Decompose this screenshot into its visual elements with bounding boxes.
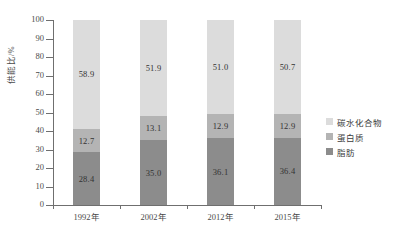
bar-segment-value-label: 12.9: [280, 121, 296, 131]
bar-segment[interactable]: 58.9: [73, 20, 100, 129]
x-axis-category-label: 2015年: [254, 210, 321, 222]
bar-segment[interactable]: 12.9: [274, 114, 301, 138]
x-axis-category-label: 1992年: [53, 210, 120, 222]
bar-segment-value-label: 12.7: [79, 136, 95, 146]
bar-segment-value-label: 36.4: [280, 166, 296, 176]
bar-segment[interactable]: 13.1: [140, 116, 167, 140]
x-axis-category-label: 2002年: [120, 210, 187, 222]
bar-segment[interactable]: 12.9: [207, 114, 234, 138]
bar-group[interactable]: 36.112.951.0: [207, 20, 234, 205]
legend-item[interactable]: 脂肪: [326, 144, 382, 159]
plot-area: 0102030405060708090100 28.412.758.935.01…: [53, 20, 321, 205]
y-axis-tick: 50: [46, 113, 53, 114]
legend-item[interactable]: 碳水化合物: [326, 114, 382, 129]
x-axis-tick: [53, 205, 54, 209]
legend-color-swatch: [326, 118, 333, 125]
bar-segment-value-label: 28.4: [79, 174, 95, 184]
y-axis-tick-label: 60: [36, 88, 45, 98]
y-axis-tick: 70: [46, 76, 53, 77]
bar-segment[interactable]: 50.7: [274, 20, 301, 114]
x-axis-tick: [321, 205, 322, 209]
y-axis-tick: 100: [46, 20, 53, 21]
bar-segment-value-label: 13.1: [146, 123, 162, 133]
legend: 碳水化合物蛋白质脂肪: [326, 114, 382, 159]
bar-segment[interactable]: 35.0: [140, 140, 167, 205]
bar-segment[interactable]: 12.7: [73, 129, 100, 152]
y-axis-tick-label: 20: [36, 162, 45, 172]
y-axis-tick-label: 0: [40, 199, 44, 209]
bar-segment-value-label: 50.7: [280, 62, 296, 72]
legend-item-label: 脂肪: [337, 146, 355, 158]
y-axis-tick: 0: [46, 205, 53, 206]
legend-item-label: 碳水化合物: [337, 116, 382, 128]
bar-segment-value-label: 51.0: [213, 62, 229, 72]
legend-item-label: 蛋白质: [337, 131, 364, 143]
bar-group[interactable]: 28.412.758.9: [73, 20, 100, 205]
y-axis-tick: 90: [46, 39, 53, 40]
y-axis-tick: 10: [46, 187, 53, 188]
bar-segment[interactable]: 51.9: [140, 20, 167, 116]
y-axis-tick-label: 100: [31, 14, 44, 24]
y-axis-tick-label: 90: [36, 33, 45, 43]
y-axis-tick: 60: [46, 94, 53, 95]
legend-color-swatch: [326, 133, 333, 140]
bar-segment-value-label: 12.9: [213, 121, 229, 131]
x-axis-tick: [254, 205, 255, 209]
x-axis-tick: [120, 205, 121, 209]
y-axis-label: 供能比/%: [4, 25, 16, 105]
bar-segment[interactable]: 36.4: [274, 138, 301, 205]
bar-group[interactable]: 36.412.950.7: [274, 20, 301, 205]
y-axis-spine: [53, 20, 54, 205]
y-axis-tick-label: 70: [36, 70, 45, 80]
bar-segment-value-label: 58.9: [79, 69, 95, 79]
bar-segment[interactable]: 28.4: [73, 152, 100, 205]
legend-item[interactable]: 蛋白质: [326, 129, 382, 144]
x-axis-tick: [187, 205, 188, 209]
x-axis-category-label: 2012年: [187, 210, 254, 222]
bar-segment-value-label: 51.9: [146, 63, 162, 73]
bar-group[interactable]: 35.013.151.9: [140, 20, 167, 205]
bar-segment-value-label: 36.1: [213, 167, 229, 177]
bar-segment[interactable]: 36.1: [207, 138, 234, 205]
legend-color-swatch: [326, 148, 333, 155]
y-axis-tick-label: 40: [36, 125, 45, 135]
y-axis-tick: 20: [46, 168, 53, 169]
bar-segment-value-label: 35.0: [146, 168, 162, 178]
y-axis-tick: 30: [46, 150, 53, 151]
y-axis-tick: 80: [46, 57, 53, 58]
y-axis-tick-label: 10: [36, 181, 45, 191]
y-axis-tick-label: 50: [36, 107, 45, 117]
y-axis-tick: 40: [46, 131, 53, 132]
y-axis-tick-label: 30: [36, 144, 45, 154]
bar-segment[interactable]: 51.0: [207, 20, 234, 114]
y-axis-tick-label: 80: [36, 51, 45, 61]
stacked-bar-chart: 供能比/% 0102030405060708090100 28.412.758.…: [0, 0, 400, 242]
